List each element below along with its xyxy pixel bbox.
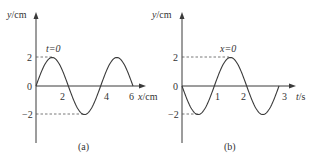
panel-b-caption: (b)	[224, 141, 236, 153]
panel-a-x-tick-4: 4	[104, 91, 109, 102]
panel-b-y-axis-label: y/cm	[151, 9, 172, 20]
panel-b-t-axis-arrow-icon	[289, 84, 296, 89]
panel-b-y-tick-neg2: −2	[168, 109, 179, 120]
panel-a-y-tick-2: 2	[27, 52, 32, 63]
panel-a-x-tick-2: 2	[60, 91, 65, 102]
panel-a-origin-label: 0	[27, 81, 32, 92]
panel-b-annotation: x=0	[219, 43, 236, 54]
panel-a-x-axis-arrow-icon	[139, 84, 146, 89]
panel-a-annotation: t=0	[46, 43, 61, 54]
panel-a-wave-graph: y/cm t=0 2 0 −2 2 4 6 x/cm (a)	[6, 9, 158, 153]
panel-b-y-axis-arrow-icon	[180, 12, 185, 19]
panel-b-t-tick-2: 2	[241, 91, 246, 102]
panel-b-origin-label: 0	[173, 81, 178, 92]
panel-b-vibration-graph: y/cm x=0 2 0 −2 1 2 3 t/s (b)	[151, 9, 306, 153]
panel-b-t-axis-label: t/s	[296, 91, 306, 102]
panel-b-t-tick-1: 1	[215, 91, 220, 102]
panel-b-y-tick-2: 2	[173, 52, 178, 63]
panel-a-y-tick-neg2: −2	[22, 109, 33, 120]
panel-b-t-tick-3: 3	[282, 91, 287, 102]
panel-a-x-tick-6: 6	[129, 91, 134, 102]
panel-a-y-axis-label: y/cm	[6, 9, 27, 20]
panel-a-y-axis-arrow-icon	[34, 12, 39, 19]
panel-a-x-axis-label: x/cm	[137, 91, 158, 102]
panel-a-caption: (a)	[78, 141, 89, 153]
